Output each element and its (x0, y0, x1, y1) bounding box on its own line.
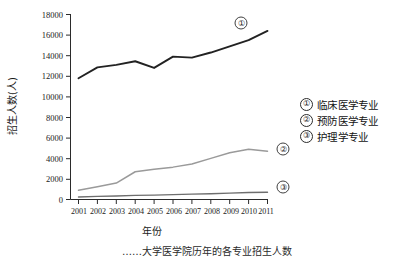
y-tick-label: 10000 (42, 92, 63, 102)
x-tick-label: 2005 (147, 207, 163, 216)
y-tick-label: 6000 (46, 133, 63, 143)
legend-item-clinical-medicine: ① 临床医学专业 (300, 96, 379, 112)
series-marker-label: ① (238, 19, 245, 28)
x-tick-label: 2001 (71, 207, 87, 216)
series-marker-1: ① (235, 17, 247, 29)
y-tick-label: 0 (59, 195, 63, 205)
series-marker-2: ② (277, 143, 289, 155)
series-marker-3: ③ (277, 181, 289, 193)
legend-marker-icon: ① (300, 98, 313, 111)
legend-marker-icon: ③ (300, 130, 313, 143)
legend-item-label: 护理学专业 (317, 129, 369, 144)
figure-caption: ……大学医学院历年的各专业招生人数 (0, 243, 414, 257)
legend-item-label: 预防医学专业 (317, 113, 379, 128)
x-tick-label: 2003 (109, 207, 125, 216)
series-line-nursing (79, 192, 268, 197)
x-axis-title: 年份 (142, 225, 162, 237)
y-axis-ticks (66, 15, 71, 200)
x-tick-label: 2008 (204, 207, 220, 216)
series-marker-label: ② (280, 145, 287, 154)
y-tick-label: 4000 (46, 154, 63, 164)
x-axis-ticks (79, 200, 268, 205)
x-tick-label: 2002 (90, 207, 106, 216)
y-tick-label: 8000 (46, 113, 63, 123)
y-axis-title: 招生人数(人) (6, 77, 18, 135)
series-line-preventive-medicine (79, 149, 268, 190)
legend-marker-icon: ② (300, 114, 313, 127)
x-tick-label: 2004 (128, 207, 144, 216)
legend-item-preventive-medicine: ② 预防医学专业 (300, 112, 379, 128)
x-tick-label: 2011 (258, 207, 274, 216)
x-tick-label: 2009 (223, 207, 239, 216)
series-line-clinical-medicine (79, 31, 268, 78)
series-marker-label: ③ (280, 183, 287, 192)
legend-item-label: 临床医学专业 (317, 97, 379, 112)
chart-legend: ① 临床医学专业 ② 预防医学专业 ③ 护理学专业 (300, 96, 379, 144)
y-tick-label: 12000 (42, 71, 63, 81)
legend-item-nursing: ③ 护理学专业 (300, 128, 379, 144)
y-tick-label: 2000 (46, 174, 63, 184)
y-tick-label: 14000 (42, 51, 63, 61)
y-tick-label: 18000 (42, 10, 63, 20)
x-tick-label: 2007 (185, 207, 201, 216)
y-tick-label: 16000 (42, 30, 63, 40)
x-tick-label: 2006 (166, 207, 182, 216)
x-tick-label: 2010 (241, 207, 257, 216)
